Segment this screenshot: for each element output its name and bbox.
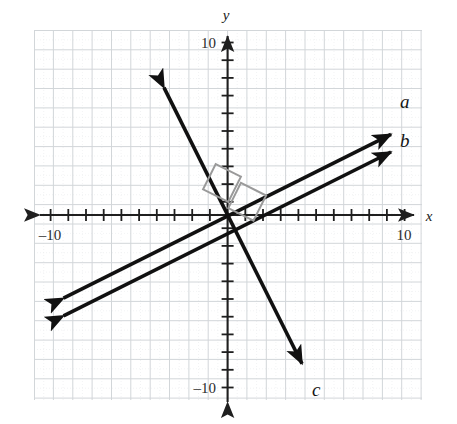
x-tick-label-positive-ten: 10	[397, 227, 412, 243]
line-label-c: c	[312, 379, 321, 400]
coordinate-plane-svg: y x –10 10 10 –10 a b c	[0, 0, 457, 424]
line-label-b: b	[400, 130, 410, 151]
y-tick-label-negative-ten: –10	[193, 380, 217, 396]
y-axis-label: y	[221, 7, 230, 23]
line-label-a: a	[400, 91, 410, 112]
y-tick-label-positive-ten: 10	[201, 35, 216, 51]
graph-figure: y x –10 10 10 –10 a b c	[0, 0, 457, 424]
x-axis-label: x	[425, 208, 433, 224]
x-tick-label-negative-ten: –10	[38, 227, 62, 243]
